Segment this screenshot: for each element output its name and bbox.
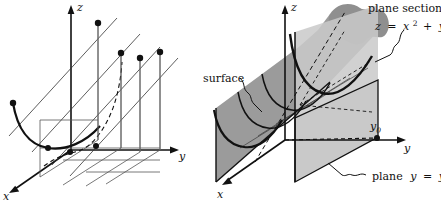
right-y-axis-label: y (403, 142, 411, 155)
plane-section-label: plane section (368, 2, 441, 15)
plane-leader-line (328, 163, 342, 175)
y0-axis-label: y0 (369, 120, 381, 135)
plane-label: plane y = y 0 (372, 170, 441, 185)
figure-container: z y x (0, 0, 441, 205)
right-z-axis-arrowhead (282, 5, 289, 14)
y0-marker-dot (374, 135, 380, 141)
right-z-axis-label: z (290, 1, 297, 14)
right-panel: z y x y0 surface plane section z = x 2 +… (0, 0, 441, 205)
plane-section-leader-squiggle (390, 30, 404, 55)
plane-leader-squiggle (342, 174, 366, 176)
surface-label: surface (203, 72, 244, 85)
right-x-axis-label: x (217, 188, 224, 201)
